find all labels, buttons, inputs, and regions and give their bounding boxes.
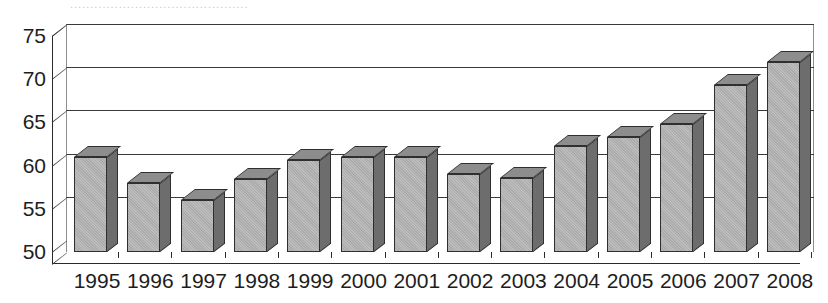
- bar-side-face: [533, 169, 544, 252]
- x-axis-tick-mark: [544, 252, 545, 258]
- bar-front-face: [500, 178, 533, 252]
- bar: [447, 174, 480, 252]
- y-axis-tick-label: 50: [4, 241, 46, 262]
- bar-side-face: [747, 77, 758, 252]
- bar-front-face: [181, 200, 214, 252]
- y-axis-tick-label: 65: [4, 111, 46, 132]
- bar-side-face: [587, 137, 598, 252]
- bar-side-face: [693, 116, 704, 252]
- bar-front-face: [660, 124, 693, 252]
- x-axis-tick-mark: [491, 252, 492, 258]
- bar-side-face: [320, 151, 331, 252]
- bar-side-face: [427, 148, 438, 252]
- bar-side-face: [374, 148, 385, 252]
- bar-front-face: [234, 179, 267, 252]
- bar: [234, 179, 267, 252]
- x-axis-tick-mark: [331, 252, 332, 258]
- bar-side-face: [214, 192, 225, 252]
- bar: [341, 157, 374, 252]
- y-axis-tick-label: 70: [4, 68, 46, 89]
- y-axis-front-edge: [52, 36, 53, 264]
- bar-front-face: [607, 137, 640, 252]
- bar-side-face: [107, 148, 118, 252]
- y-axis-3d: [52, 24, 67, 264]
- bar-front-face: [287, 160, 320, 252]
- x-axis-tick-label: 2008: [757, 268, 823, 294]
- bar: [714, 85, 747, 252]
- x-axis-tick-mark: [651, 252, 652, 258]
- x-axis-tick-mark: [704, 252, 705, 258]
- bar-chart: ........................................…: [0, 0, 828, 303]
- bar-front-face: [767, 62, 800, 252]
- bar-front-face: [394, 157, 427, 252]
- gridline: [66, 67, 814, 68]
- y-axis-tick-label: 55: [4, 198, 46, 219]
- bar-front-face: [714, 85, 747, 252]
- x-axis-tick-mark: [385, 252, 386, 258]
- bar-side-face: [640, 128, 651, 252]
- cropped-title-sliver: ........................................…: [70, 0, 760, 9]
- x-axis-tick-mark: [758, 252, 759, 258]
- y-axis-tick-label: 60: [4, 155, 46, 176]
- bar: [287, 160, 320, 252]
- bar-front-face: [74, 157, 107, 252]
- gridline: [66, 24, 814, 25]
- bar-front-face: [447, 174, 480, 252]
- y-axis-bottom-edge: [52, 252, 67, 265]
- x-axis-tick-mark: [811, 252, 812, 258]
- bar-side-face: [480, 166, 491, 252]
- bar-side-face: [160, 174, 171, 252]
- bar-front-face: [554, 146, 587, 252]
- bar-front-face: [127, 183, 160, 252]
- bar-side-face: [267, 170, 278, 252]
- x-axis-tick-labels: 1995199619971998199920002001200220032004…: [52, 268, 828, 300]
- bar: [767, 62, 800, 252]
- y-axis-tick-label: 75: [4, 25, 46, 46]
- plot-area: 505560657075: [52, 36, 814, 264]
- x-axis-tick-mark: [118, 252, 119, 258]
- bar: [127, 183, 160, 252]
- x-axis-tick-mark: [598, 252, 599, 258]
- x-axis-tick-mark: [171, 252, 172, 258]
- bar-front-face: [341, 157, 374, 252]
- bar-side-face: [800, 53, 811, 252]
- bar: [554, 146, 587, 252]
- x-axis-tick-mark: [438, 252, 439, 258]
- bar: [394, 157, 427, 252]
- bar: [500, 178, 533, 252]
- x-axis-tick-mark: [278, 252, 279, 258]
- bar: [660, 124, 693, 252]
- bar: [74, 157, 107, 252]
- bar: [181, 200, 214, 252]
- chart-floor: [52, 252, 800, 264]
- bar: [607, 137, 640, 252]
- gridline: [66, 110, 814, 111]
- y-axis-back-edge: [66, 24, 67, 252]
- x-axis-tick-mark: [225, 252, 226, 258]
